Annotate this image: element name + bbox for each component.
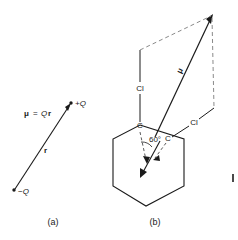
caption-panel-a: (a) [48, 217, 59, 227]
carbon-right-label: C [165, 134, 171, 143]
caption-panel-b: (b) [150, 217, 161, 227]
negative-charge-label: −Q [18, 187, 29, 196]
equation-charge-symbol: Q [41, 109, 47, 118]
bond-moment-vector-left-arrowhead [143, 156, 150, 164]
figure-svg: +Q −Q r μ = Q r (a) C C [0, 0, 238, 240]
equation-mu-symbol: μ [24, 109, 29, 118]
angle-label-60-degrees: 60° [149, 135, 161, 144]
bond-chlorine-right-upper [199, 108, 214, 119]
figure-container: +Q −Q r μ = Q r (a) C C [0, 0, 238, 240]
carbon-left-label: C [137, 121, 143, 130]
negative-charge-dot [12, 188, 15, 191]
equation-equals-symbol: = [33, 109, 38, 118]
resultant-moment-arrow [155, 18, 211, 137]
chlorine-right-label: Cl [190, 118, 198, 127]
bond-carbon-right-chlorine [172, 126, 189, 137]
dipole-vector-line [15, 106, 69, 189]
equation-distance-symbol: r [48, 109, 51, 118]
page-edge-artifact [232, 174, 234, 182]
parallelogram-dashed-right [212, 18, 214, 108]
bond-moment-resultant-arrowhead [140, 168, 147, 178]
panel-a-group: +Q −Q r μ = Q r (a) [12, 99, 86, 227]
chlorine-left-label: Cl [136, 84, 144, 93]
separation-label: r [44, 146, 47, 155]
positive-charge-dot [69, 101, 72, 104]
panel-b-group: C C Cl Cl μ [113, 14, 214, 227]
bond-moment-vector-right [155, 143, 166, 158]
bond-moment-vector-left [140, 132, 146, 160]
resultant-moment-label: μ [175, 66, 185, 74]
parallelogram-dashed-top-left [140, 16, 211, 50]
bond-moment-vector-right-arrowhead [153, 155, 160, 161]
positive-charge-label: +Q [75, 99, 86, 108]
